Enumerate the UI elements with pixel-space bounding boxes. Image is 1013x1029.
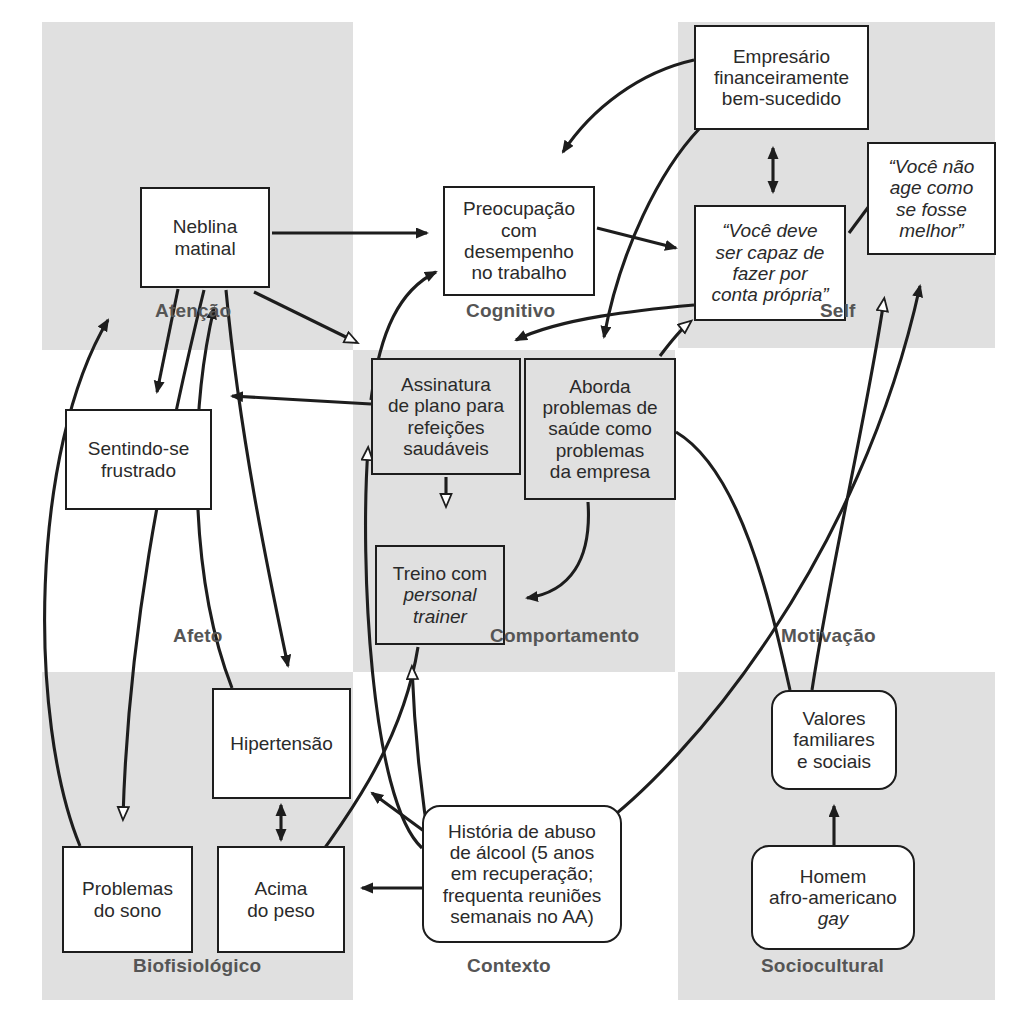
node-label-preocupacao-trabalho: Preocupação com desempenho no trabalho bbox=[463, 198, 575, 283]
node-hipertensao[interactable]: Hipertensão bbox=[212, 688, 351, 799]
edge-aborda-to-vocedeve bbox=[660, 322, 690, 356]
node-homem-afro-gay[interactable]: Homem afro-americano gay bbox=[751, 845, 915, 950]
node-problemas-do-sono[interactable]: Problemas do sono bbox=[62, 846, 193, 953]
diagram-canvas: Neblina matinal Sentindo-se frustrado Pr… bbox=[0, 0, 1013, 1029]
domain-label-atencao: Atenção bbox=[155, 300, 231, 322]
domain-label-self: Self bbox=[820, 300, 856, 322]
node-label-neblina-matinal: Neblina matinal bbox=[173, 216, 237, 259]
node-label-voce-deve-capaz: “Você deve ser capaz de fazer por conta … bbox=[711, 220, 828, 305]
domain-label-contexto: Contexto bbox=[467, 955, 551, 977]
node-sentindo-se-frustrado[interactable]: Sentindo-se frustrado bbox=[65, 409, 212, 510]
node-label-assinatura-plano: Assinatura de plano para refeições saudá… bbox=[388, 374, 504, 459]
node-historia-abuso-alcool[interactable]: História de abuso de álcool (5 anos em r… bbox=[422, 805, 622, 943]
domain-label-biofisiologico: Biofisiológico bbox=[133, 955, 261, 977]
domain-label-afeto: Afeto bbox=[173, 625, 223, 647]
node-preocupacao-trabalho[interactable]: Preocupação com desempenho no trabalho bbox=[443, 186, 595, 296]
edge-aborda-to-valores bbox=[676, 432, 790, 690]
edge-empresario-to-preocupacao bbox=[563, 60, 694, 152]
edge-neblina-to-hipertensao bbox=[226, 290, 288, 666]
edge-neblina-to-assinatura bbox=[254, 292, 356, 342]
node-label-valores-familiares: Valores familiares e sociais bbox=[793, 708, 874, 772]
node-label-hipertensao: Hipertensão bbox=[230, 733, 332, 754]
node-voce-nao-age[interactable]: “Você não age como se fosse melhor” bbox=[867, 142, 996, 255]
node-valores-familiares[interactable]: Valores familiares e sociais bbox=[771, 690, 897, 790]
node-neblina-matinal[interactable]: Neblina matinal bbox=[140, 187, 270, 288]
node-assinatura-plano[interactable]: Assinatura de plano para refeições saudá… bbox=[371, 358, 521, 475]
edge-neblina-to-problemas-sono bbox=[123, 290, 204, 818]
node-acima-do-peso[interactable]: Acima do peso bbox=[217, 846, 345, 953]
node-label-acima-do-peso: Acima do peso bbox=[247, 878, 315, 921]
node-label-treino-personal: Treino com personal trainer bbox=[393, 563, 487, 627]
node-label-sentindo-se-frustrado: Sentindo-se frustrado bbox=[88, 438, 189, 481]
node-empresario-sucedido[interactable]: Empresário financeiramente bem-sucedido bbox=[694, 25, 869, 130]
edge-assinatura-to-sentindo bbox=[232, 396, 371, 404]
node-label-aborda-problemas: Aborda problemas de saúde como problemas… bbox=[542, 376, 657, 482]
node-treino-personal[interactable]: Treino com personal trainer bbox=[375, 545, 505, 645]
domain-label-sociocultural: Sociocultural bbox=[761, 955, 884, 977]
domain-label-cognitivo: Cognitivo bbox=[466, 300, 555, 322]
edge-aborda-to-treino bbox=[527, 502, 588, 598]
node-label-historia-abuso-alcool: História de abuso de álcool (5 anos em r… bbox=[443, 821, 601, 927]
node-label-empresario-sucedido: Empresário financeiramente bem-sucedido bbox=[714, 46, 849, 110]
node-label-problemas-do-sono: Problemas do sono bbox=[82, 878, 173, 921]
domain-label-comportamento: Comportamento bbox=[490, 625, 639, 647]
node-aborda-problemas[interactable]: Aborda problemas de saúde como problemas… bbox=[524, 358, 676, 500]
node-label-homem-afro-gay: Homem afro-americano gay bbox=[769, 866, 897, 930]
node-label-voce-nao-age: “Você não age como se fosse melhor” bbox=[889, 156, 975, 241]
edge-problemas-sono-to-neblina bbox=[45, 320, 108, 846]
domain-label-motivacao: Motivação bbox=[781, 625, 876, 647]
edge-historia-to-assinatura bbox=[366, 449, 422, 848]
